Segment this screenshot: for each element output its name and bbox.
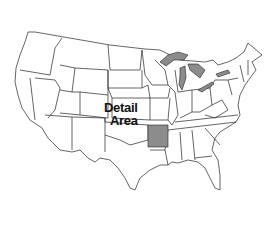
highlighted-state-arkansas <box>148 125 168 147</box>
detail-label: Detail Area <box>104 101 138 127</box>
us-outline <box>15 32 262 190</box>
detail-label-line2: Area <box>110 114 138 127</box>
